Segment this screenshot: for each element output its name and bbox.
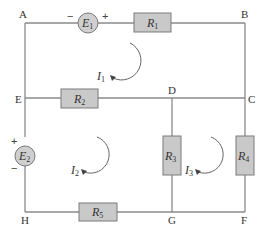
resistor-r5: R5 <box>79 203 117 221</box>
svg-text:I1: I1 <box>96 69 105 84</box>
mesh-current-i3: I3 <box>184 137 223 178</box>
mesh-current-i1: I1 <box>96 43 141 84</box>
resistor-r3: R3 <box>163 136 181 175</box>
svg-text:I2: I2 <box>70 163 79 178</box>
circuit-diagram: A B C D E F G H E1 − + E2 + − R1 R2 R3 R… <box>0 0 267 236</box>
node-e-label: E <box>15 93 22 105</box>
mesh-current-i2: I2 <box>70 137 109 178</box>
source-e2: E2 + − <box>11 135 35 174</box>
node-g-label: G <box>168 214 176 226</box>
resistor-r2: R2 <box>61 89 98 108</box>
node-c-label: C <box>248 93 255 105</box>
e1-positive-sign: + <box>102 10 108 22</box>
node-f-label: F <box>241 214 247 226</box>
wires <box>25 23 245 212</box>
svg-text:I3: I3 <box>184 163 193 178</box>
resistor-r1: R1 <box>134 13 171 32</box>
node-a-label: A <box>19 8 27 20</box>
e2-positive-sign: + <box>11 135 17 147</box>
source-e1: E1 − + <box>67 10 108 33</box>
resistor-r4: R4 <box>236 136 254 175</box>
node-b-label: B <box>241 8 248 20</box>
e2-negative-sign: − <box>11 162 17 174</box>
e1-negative-sign: − <box>67 10 73 22</box>
node-d-label: D <box>168 84 176 96</box>
node-h-label: H <box>21 214 29 226</box>
